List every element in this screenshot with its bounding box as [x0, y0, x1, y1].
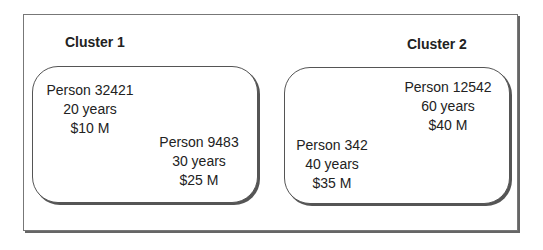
person-age: 20 years: [45, 100, 135, 119]
person-age: 30 years: [155, 152, 243, 171]
person-value: $40 M: [403, 116, 493, 135]
person-name: Person 342: [292, 136, 372, 155]
person-name: Person 9483: [155, 133, 243, 152]
cluster-1-title: Cluster 1: [65, 34, 125, 50]
cluster-2-title: Cluster 2: [407, 36, 467, 52]
person-value: $25 M: [155, 171, 243, 190]
person-node: Person 9483 30 years $25 M: [155, 133, 243, 190]
person-value: $35 M: [292, 174, 372, 193]
person-age: 60 years: [403, 97, 493, 116]
person-value: $10 M: [45, 119, 135, 138]
person-name: Person 12542: [403, 78, 493, 97]
person-node: Person 32421 20 years $10 M: [45, 81, 135, 138]
person-name: Person 32421: [45, 81, 135, 100]
person-node: Person 342 40 years $35 M: [292, 136, 372, 193]
person-age: 40 years: [292, 155, 372, 174]
person-node: Person 12542 60 years $40 M: [403, 78, 493, 135]
